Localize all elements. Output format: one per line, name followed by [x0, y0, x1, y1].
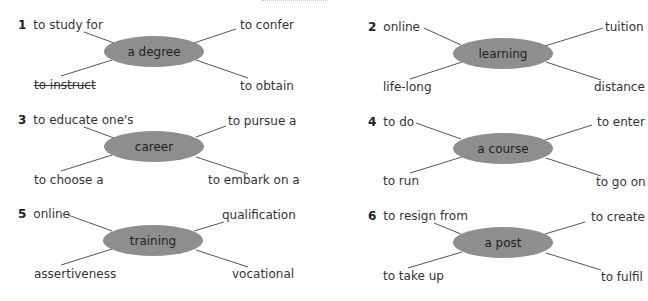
group-4-bottom-right: to go on	[596, 175, 646, 189]
center-oval-career: career	[104, 131, 204, 162]
group-6-bottom-right: to fulfil	[601, 270, 643, 284]
collocate-label: to resign from	[383, 209, 467, 223]
group-number: 4	[368, 115, 376, 129]
group-number: 1	[18, 18, 26, 32]
collocate-label: online	[383, 20, 420, 34]
group-5-bottom-right: vocational	[232, 267, 294, 281]
group-5-top-right: qualification	[222, 208, 296, 222]
center-oval-learning: learning	[453, 38, 553, 69]
collocate-label: online	[33, 207, 70, 221]
group-6-top-left: 6to resign from	[368, 209, 468, 223]
group-number: 3	[18, 113, 26, 127]
group-5-bottom-left: assertiveness	[34, 267, 116, 281]
center-oval-a-post: a post	[453, 227, 553, 258]
center-oval-training: training	[103, 225, 203, 256]
group-3-bottom-right: to embark on a	[208, 173, 300, 187]
center-oval-a-degree: a degree	[104, 36, 204, 67]
group-1-bottom-left-struck: to instruct	[34, 78, 96, 92]
group-4-top-right: to enter	[597, 115, 645, 129]
collocate-label: to study for	[33, 18, 102, 32]
group-2-bottom-left: life-long	[383, 80, 432, 94]
collocate-label: to educate one's	[33, 113, 133, 127]
group-3-top-left: 3to educate one's	[18, 113, 134, 127]
group-1-top-left: 1to study for	[18, 18, 103, 32]
group-3-bottom-left: to choose a	[34, 173, 104, 187]
collocation-exercise: 1to study for to confer to instruct to o…	[0, 0, 648, 301]
group-5-top-left: 5online	[18, 207, 70, 221]
group-6-bottom-left: to take up	[383, 269, 444, 283]
group-3-top-right: to pursue a	[228, 114, 296, 128]
group-1-bottom-right: to obtain	[240, 79, 288, 93]
center-oval-a-course: a course	[453, 133, 553, 164]
group-number: 5	[18, 207, 26, 221]
group-1-top-right: to confer	[240, 18, 290, 32]
group-6-top-right: to create	[591, 210, 645, 224]
group-2-bottom-right: distance	[594, 80, 645, 94]
group-2-top-right: tuition	[605, 20, 644, 34]
group-4-bottom-left: to run	[383, 174, 419, 188]
collocate-label: to do	[383, 115, 414, 129]
group-number: 6	[368, 209, 376, 223]
group-number: 2	[368, 20, 376, 34]
group-2-top-left: 2online	[368, 20, 420, 34]
group-4-top-left: 4to do	[368, 115, 414, 129]
